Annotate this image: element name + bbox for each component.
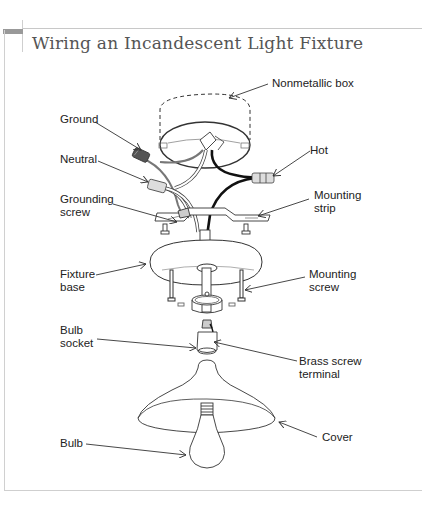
label-mounting-strip-line1: Mounting [314, 189, 361, 202]
label-cover: Cover [322, 431, 353, 444]
wire-nut-neutral [147, 179, 167, 193]
label-mounting-screw-line2: screw [309, 281, 339, 294]
wires [142, 150, 255, 236]
bulb [189, 403, 224, 468]
bulb-socket [197, 320, 217, 354]
label-brass-screw-terminal-line1: Brass screw [299, 355, 362, 368]
label-bulb-socket-line2: socket [60, 337, 93, 350]
label-fixture-base-line2: base [60, 281, 85, 294]
label-mounting-screw-line1: Mounting [309, 268, 356, 281]
label-grounding-screw-line1: Grounding [60, 193, 114, 206]
label-hot: Hot [310, 144, 328, 157]
label-brass-screw-terminal-line2: terminal [299, 368, 340, 381]
label-neutral: Neutral [60, 153, 97, 166]
label-grounding-screw-line2: screw [60, 206, 90, 219]
label-bulb-socket-line1: Bulb [60, 324, 83, 337]
label-ground: Ground [60, 113, 98, 126]
label-mounting-strip-line2: strip [314, 202, 336, 215]
wire-nut-ground [132, 147, 151, 163]
wire-nut-hot [252, 173, 274, 183]
label-nonmetallic-box: Nonmetallic box [272, 77, 354, 90]
label-fixture-base-line1: Fixture [60, 268, 95, 281]
label-bulb: Bulb [60, 437, 83, 450]
